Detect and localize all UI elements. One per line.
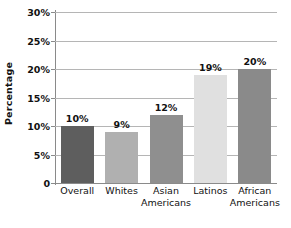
bar: 10% <box>61 126 94 183</box>
y-axis-tick-label: 30% <box>27 7 50 18</box>
bar-value-label: 9% <box>114 119 130 130</box>
y-axis-tick <box>51 98 55 99</box>
bar-chart: Percentage 30%25%20%15%10%5%0 10%9%12%19… <box>0 0 291 228</box>
y-axis-tick-label: 0 <box>43 178 50 189</box>
y-axis-title: Percentage <box>0 0 18 186</box>
x-axis-line <box>55 183 277 184</box>
gridline <box>55 12 277 13</box>
bar: 12% <box>150 115 183 183</box>
y-axis-tick-label: 20% <box>27 64 50 75</box>
y-axis-tick <box>51 155 55 156</box>
x-axis-category-label-line1: African <box>238 185 271 196</box>
bar-value-label: 19% <box>199 62 222 73</box>
y-axis-tick-labels: 30%25%20%15%10%5%0 <box>18 0 53 190</box>
y-axis-tick-label: 15% <box>27 92 50 103</box>
x-axis-category-label-line1: Latinos <box>193 185 227 196</box>
x-axis-category-label-line2: Americans <box>229 197 281 209</box>
x-axis-category-label-line1: Asian <box>153 185 179 196</box>
y-axis-tick-label: 5% <box>34 149 50 160</box>
bar-value-label: 10% <box>66 113 89 124</box>
x-axis-category-labels: OverallWhitesAsianAmericansLatinosAfrica… <box>55 185 277 228</box>
y-axis-tick <box>51 12 55 13</box>
y-axis-tick <box>51 183 55 184</box>
bar-value-label: 20% <box>243 56 266 67</box>
x-axis-category-label-line1: Overall <box>60 185 94 196</box>
bar: 9% <box>105 132 138 183</box>
bar: 19% <box>194 75 227 183</box>
x-axis-category-label-line1: Whites <box>105 185 138 196</box>
plot-area: 10%9%12%19%20% <box>55 12 277 183</box>
y-axis-tick <box>51 126 55 127</box>
y-axis-title-label: Percentage <box>4 61 15 124</box>
gridline <box>55 41 277 42</box>
y-axis-tick <box>51 41 55 42</box>
bar-value-label: 12% <box>155 102 178 113</box>
x-axis-category-label: AfricanAmericans <box>229 185 281 208</box>
y-axis-tick-label: 10% <box>27 121 50 132</box>
y-axis-tick <box>51 69 55 70</box>
y-axis-tick-label: 25% <box>27 35 50 46</box>
bar: 20% <box>238 69 271 183</box>
x-axis-category-label-line2: Americans <box>140 197 192 209</box>
